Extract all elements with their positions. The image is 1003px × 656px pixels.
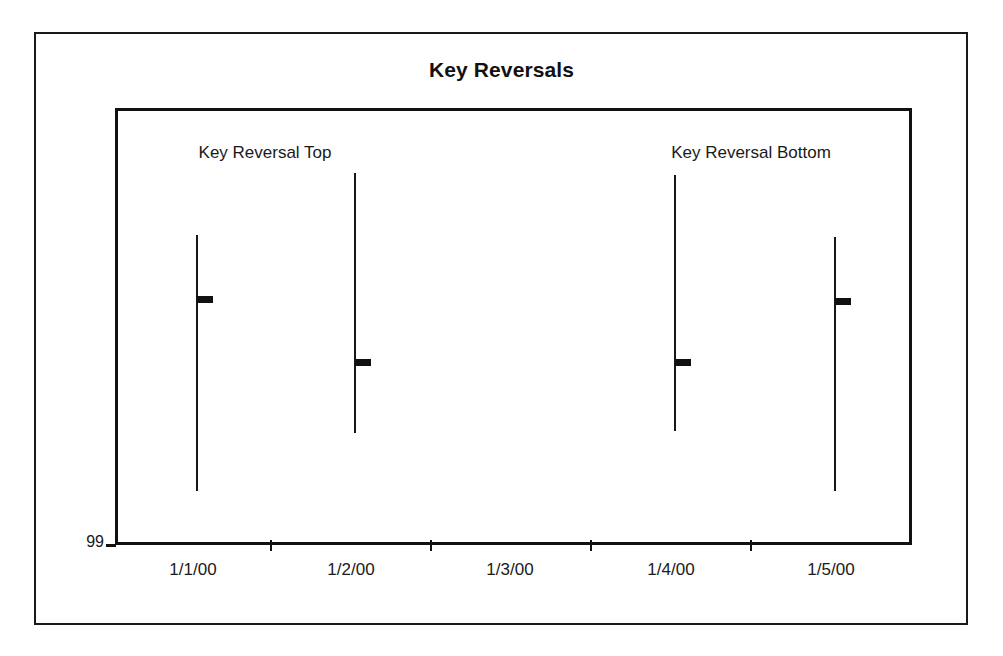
x-axis-label: 1/2/00	[327, 560, 374, 580]
ohlc-close-tick	[675, 359, 691, 366]
x-axis-tick	[430, 540, 432, 551]
ohlc-high-low-line	[674, 175, 676, 431]
ohlc-high-low-line	[354, 173, 356, 433]
x-axis-tick	[590, 540, 592, 551]
x-axis-tick	[750, 540, 752, 551]
ohlc-close-tick	[835, 298, 851, 305]
x-axis-tick	[270, 540, 272, 551]
ohlc-high-low-line	[834, 237, 836, 491]
annotation-key-reversal-top: Key Reversal Top	[199, 143, 332, 163]
y-axis-tick-99	[106, 544, 116, 547]
y-axis-label-99: 99	[72, 533, 104, 551]
x-axis-label: 1/4/00	[647, 560, 694, 580]
x-axis-label: 1/3/00	[486, 560, 533, 580]
chart-screenshot: Key Reversals Key Reversal TopKey Revers…	[0, 0, 1003, 656]
ohlc-bar	[834, 237, 836, 491]
plot-inner-surface: Key Reversal TopKey Reversal Bottom	[118, 111, 909, 542]
ohlc-close-tick	[355, 359, 371, 366]
ohlc-bar	[196, 235, 198, 491]
ohlc-high-low-line	[196, 235, 198, 491]
plot-area: Key Reversal TopKey Reversal Bottom	[115, 108, 912, 545]
ohlc-close-tick	[197, 296, 213, 303]
x-axis-label: 1/1/00	[169, 560, 216, 580]
annotation-key-reversal-bottom: Key Reversal Bottom	[671, 143, 831, 163]
ohlc-bar	[354, 173, 356, 433]
x-axis-label: 1/5/00	[807, 560, 854, 580]
chart-title: Key Reversals	[0, 58, 1003, 82]
ohlc-bar	[674, 175, 676, 431]
